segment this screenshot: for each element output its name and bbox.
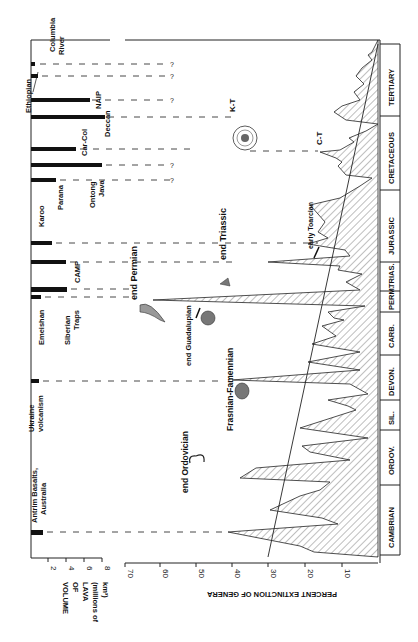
svg-text:?: ? — [170, 177, 174, 184]
label-ukraine: Ukraine — [27, 404, 36, 432]
ext-tick-60: 60 — [161, 569, 170, 578]
period-carboniferous: CARB. — [387, 324, 396, 348]
label-deccan: Deccan — [103, 110, 112, 137]
bar-ontong-java — [31, 163, 102, 167]
svg-text:Java: Java — [97, 179, 106, 197]
ammonite-icon — [233, 126, 257, 150]
label-end-ordovician: end Ordovician — [180, 431, 190, 493]
label-early-toarcian: early Toarcian — [307, 202, 315, 249]
frasnian-fossil-icon — [235, 383, 249, 399]
bar-deccan — [31, 115, 105, 119]
period-cambrian: CAMBRIAN — [387, 507, 396, 548]
lava-tick-2: 2 — [49, 566, 58, 571]
lava-axis-title: VOLUME OF LAVA (millions of km³) — [61, 582, 110, 623]
label-camp: CAMP — [73, 261, 82, 283]
bar-car-col — [31, 147, 76, 151]
svg-text:km³): km³) — [101, 582, 110, 598]
coral-horn-icon — [140, 304, 165, 322]
period-cretaceous: CRETACEOUS — [387, 132, 396, 184]
label-end-permian: end Permian — [129, 246, 139, 300]
svg-text:?: ? — [170, 61, 174, 68]
label-frasnian-famennian: Frasnian-Famennian — [225, 348, 235, 431]
brachiopod-icon — [201, 311, 215, 325]
svg-text:?: ? — [170, 162, 174, 169]
period-devonian: DEVON. — [387, 367, 396, 396]
extinction-axis: 70 60 50 40 30 20 10 PERCENT EXTINCTION … — [125, 563, 352, 599]
ext-tick-50: 50 — [197, 569, 206, 578]
bar-columbia-river — [31, 62, 35, 66]
svg-text:River: River — [57, 36, 66, 55]
bar-naip — [31, 98, 90, 102]
ext-tick-30: 30 — [269, 569, 278, 578]
ext-tick-20: 20 — [306, 569, 315, 578]
period-tertiary: TERTIARY — [387, 69, 396, 106]
label-end-guadalupian: end Guadalupian — [184, 305, 193, 366]
label-end-triassic: end Triassic — [218, 208, 228, 260]
label-k-t: K-T — [228, 99, 237, 112]
extinction-volcanism-figure: 2 4 6 8 VOLUME OF LAVA (millions of km³)… — [0, 0, 418, 642]
label-ontong-java: Ontong — [88, 181, 97, 208]
period-jurassic: JURASSIC — [387, 216, 396, 255]
svg-text:(millions of: (millions of — [91, 582, 100, 623]
svg-text:?: ? — [170, 73, 174, 80]
svg-text:volcanism: volcanism — [36, 395, 45, 432]
lava-bar-labels: Columbia River Ethiopian NAIP Deccan Car… — [24, 17, 112, 523]
period-permian: PERM. — [387, 286, 396, 310]
label-car-col: Car-Col — [80, 129, 89, 156]
bar-emeishan — [31, 295, 41, 299]
bar-karoo — [31, 241, 52, 245]
ext-tick-70: 70 — [126, 569, 135, 578]
bar-antrim — [31, 530, 43, 535]
label-antrim: Antrim Basalts, — [30, 468, 39, 523]
svg-text:VOLUME: VOLUME — [61, 582, 70, 614]
label-emeishan: Emeishan — [37, 309, 46, 345]
lava-bars — [31, 62, 105, 535]
period-ordovician: ORDOV. — [387, 446, 396, 475]
ext-tick-10: 10 — [343, 569, 352, 578]
bar-camp — [31, 260, 66, 264]
period-triassic: TRIAS. — [387, 263, 396, 288]
ordovician-fossil-icon — [190, 455, 205, 463]
question-marks: ? ? ? ? ? — [170, 61, 174, 184]
lava-tick-4: 4 — [67, 566, 76, 571]
ext-tick-40: 40 — [233, 569, 242, 578]
lava-tick-6: 6 — [85, 566, 94, 571]
svg-text:Traps: Traps — [72, 310, 81, 330]
lava-tick-8: 8 — [103, 566, 112, 571]
bar-parana — [31, 178, 56, 182]
toarcian-arrow-icon — [314, 247, 319, 258]
bar-ukraine — [31, 379, 39, 383]
guadalupian-arrow-icon — [196, 308, 200, 318]
extinction-axis-title: PERCENT EXTINCTION OF GENERA — [206, 590, 337, 599]
svg-text:OF: OF — [71, 582, 80, 593]
label-columbia-river: Columbia — [48, 17, 57, 52]
svg-text:Australia: Australia — [39, 482, 48, 515]
bar-siberian-traps — [31, 287, 67, 292]
period-silurian: SIL. — [387, 411, 396, 425]
label-ethiopian: Ethiopian — [24, 78, 33, 113]
label-karoo: Karoo — [37, 205, 46, 227]
period-column: TERTIARY CRETACEOUS JURASSIC TRIAS. PERM… — [380, 40, 400, 563]
svg-text:LAVA: LAVA — [81, 582, 90, 602]
svg-text:?: ? — [170, 97, 174, 104]
label-siberian-traps: Siberian — [63, 315, 72, 345]
label-c-t: C-T — [315, 132, 324, 145]
triassic-fossil-icon — [220, 278, 230, 286]
label-parana: Parana — [56, 184, 65, 210]
